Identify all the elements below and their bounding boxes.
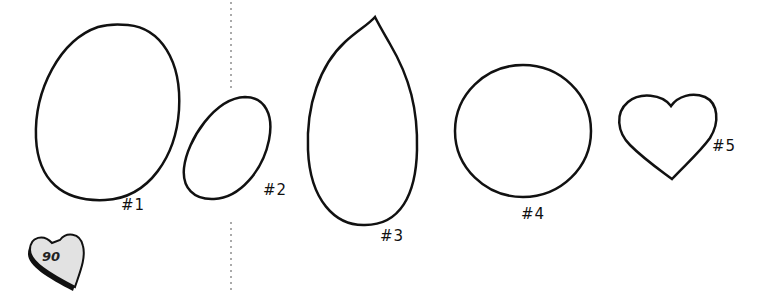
shape-label-3: #3 [380,227,404,245]
shape-label-2: #2 [263,181,287,199]
shape-2-oval [184,97,271,199]
shape-label-4: #4 [521,205,545,223]
shape-5-heart [619,95,716,179]
shape-label-1: #1 [121,196,145,214]
shape-1-oval [36,24,179,200]
shape-4-circle [455,65,591,197]
pattern-canvas [0,0,764,295]
shape-3-teardrop [308,17,417,225]
shape-label-5: #5 [712,137,736,155]
page-number: 90 [42,249,60,264]
